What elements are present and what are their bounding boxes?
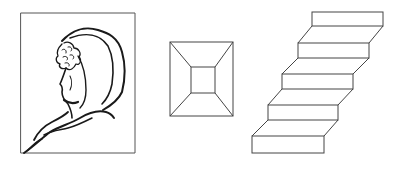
tread-3-left bbox=[268, 89, 282, 105]
shawl-mid bbox=[44, 118, 92, 135]
illusion-figures bbox=[0, 0, 404, 169]
ambiguous-face-panel bbox=[21, 13, 135, 153]
tread-1-right bbox=[369, 26, 383, 43]
box-edge-bottom-right bbox=[215, 93, 233, 116]
step-riser-3 bbox=[282, 74, 353, 89]
mouth-line bbox=[64, 100, 78, 103]
hair bbox=[56, 42, 80, 69]
tread-3-right bbox=[338, 89, 353, 105]
tread-1-left bbox=[298, 26, 312, 43]
hair-curls bbox=[62, 47, 74, 66]
box-inner-square bbox=[191, 67, 215, 93]
box-edge-top-left bbox=[170, 42, 191, 67]
cheek-line bbox=[70, 76, 72, 90]
box-edge-bottom-left bbox=[170, 93, 191, 116]
step-riser-2 bbox=[298, 43, 369, 58]
box-edge-top-right bbox=[215, 42, 233, 67]
tread-4-left bbox=[252, 120, 268, 136]
step-riser-5 bbox=[252, 136, 324, 153]
staircase-panel bbox=[252, 12, 383, 153]
tread-2-left bbox=[282, 58, 298, 74]
tread-2-right bbox=[353, 58, 369, 74]
tread-4-right bbox=[324, 120, 338, 136]
step-riser-1 bbox=[312, 12, 383, 26]
step-riser-4 bbox=[268, 105, 338, 120]
shawl-lower bbox=[24, 111, 114, 153]
hood-inner bbox=[70, 35, 113, 104]
reversible-box-panel bbox=[170, 42, 233, 116]
